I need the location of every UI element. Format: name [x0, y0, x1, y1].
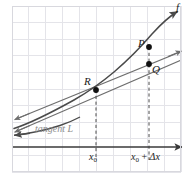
point-p [146, 44, 152, 50]
point-label-r: R [84, 76, 91, 87]
x0dx-operator: + [139, 151, 150, 162]
tangent-line-label: tangent L [35, 124, 73, 134]
x0dx-delta-x: Δx [150, 151, 160, 162]
derivative-diagram: f P Q R tangent L x0 x0 + Δx [0, 0, 194, 180]
point-label-q: Q [152, 64, 160, 75]
x0-subscript: 0 [93, 156, 97, 164]
point-r [93, 87, 99, 93]
function-label-f: f [176, 2, 179, 13]
x-axis-label-x0-plus-delta-x: x0 + Δx [131, 152, 160, 164]
x-axis-label-x0: x0 [89, 152, 97, 164]
point-label-p: P [138, 38, 145, 49]
diagram-canvas [0, 0, 194, 180]
